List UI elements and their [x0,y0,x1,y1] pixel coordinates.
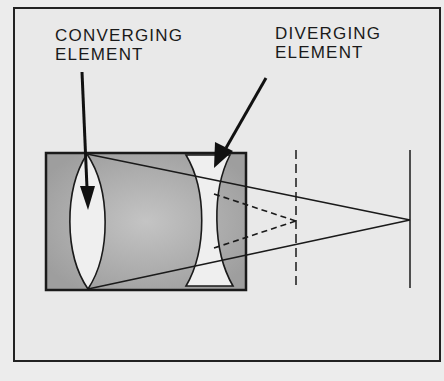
optics-diagram [0,0,444,381]
converging-arrow-icon [80,72,95,210]
